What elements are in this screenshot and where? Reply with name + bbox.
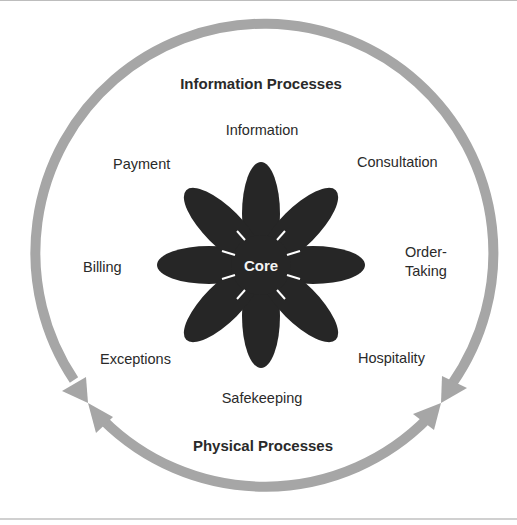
core-label: Core [244, 257, 278, 274]
order-taking-line1: Order- [405, 243, 447, 262]
information-processes-heading: Information Processes [180, 75, 342, 93]
petal-label-hospitality: Hospitality [358, 349, 425, 367]
arrowhead-left-down-icon [62, 377, 88, 403]
petal-label-safekeeping: Safekeeping [222, 389, 303, 407]
petal-label-exceptions: Exceptions [100, 350, 171, 368]
petal-label-payment: Payment [113, 155, 170, 173]
petal-label-information: Information [226, 121, 299, 139]
petal-label-order-taking: Order- Taking [405, 243, 447, 281]
petal-label-billing: Billing [83, 258, 122, 276]
order-taking-line2: Taking [405, 262, 447, 281]
physical-processes-heading: Physical Processes [193, 437, 333, 455]
petal-label-consultation: Consultation [357, 153, 438, 171]
